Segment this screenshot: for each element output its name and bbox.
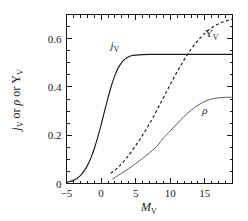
y-tick-label: 0.4	[48, 81, 62, 93]
x-tick-label: 0	[98, 187, 104, 199]
x-axis-title-subscript: V	[151, 207, 157, 216]
y-axis-title-or1: or	[9, 106, 23, 122]
x-tick-label: −5	[61, 187, 73, 199]
curve-Upsilon_V	[111, 19, 233, 173]
y-axis-tick-labels: 00.20.40.6	[48, 33, 62, 190]
y-tick-label: 0.6	[48, 33, 62, 45]
y-axis-title-upsilon: Υ	[9, 75, 23, 84]
x-axis-tick-labels: −5051015	[61, 187, 211, 199]
chart-figure: −5051015 00.20.40.6 jVΥVρ MV jV or ρ or …	[0, 0, 248, 221]
curve-rho	[112, 97, 232, 179]
x-tick-label: 10	[165, 187, 177, 199]
curve-label-Upsilon_V: ΥV	[205, 27, 219, 42]
line-chart: −5051015 00.20.40.6 jVΥVρ MV jV or ρ or …	[0, 0, 248, 221]
y-axis-title-or2: or	[9, 84, 23, 100]
curve-label-j_V: jV	[108, 39, 119, 54]
y-tick-label: 0	[56, 178, 62, 190]
x-tick-label: 5	[133, 187, 139, 199]
svg-text:MV: MV	[140, 200, 157, 216]
curve-j_V	[67, 54, 233, 182]
svg-text:jV or ρ or ΥV: jV or ρ or ΥV	[9, 69, 25, 133]
x-tick-label: 15	[199, 187, 211, 199]
x-axis-title: MV	[140, 200, 157, 216]
curve-label-rho: ρ	[201, 104, 207, 116]
y-tick-label: 0.2	[48, 129, 62, 141]
data-curves	[67, 19, 233, 182]
y-axis-title-upsilon-sub: V	[16, 69, 25, 75]
y-axis-title: jV or ρ or ΥV	[9, 69, 25, 133]
